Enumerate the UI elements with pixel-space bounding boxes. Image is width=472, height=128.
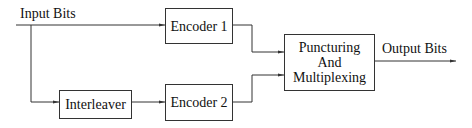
interleaver-block: Interleaver	[59, 90, 132, 119]
puncturing-label-line2: And	[317, 55, 341, 70]
output-bits-label: Output Bits	[382, 41, 447, 57]
encoder2-block: Encoder 2	[165, 84, 233, 121]
puncturing-label-line3: Multiplexing	[293, 70, 366, 85]
puncturing-label-line1: Puncturing	[299, 40, 360, 55]
arrow-input-to-interleaver	[31, 25, 59, 102]
arrow-encoder2-to-puncturing	[232, 75, 284, 102]
encoder2-label: Encoder 2	[170, 95, 227, 110]
interleaver-label: Interleaver	[65, 97, 126, 112]
arrow-encoder1-to-puncturing	[232, 25, 284, 52]
puncturing-multiplexing-block: Puncturing And Multiplexing	[284, 34, 375, 91]
input-bits-label: Input Bits	[20, 6, 76, 22]
encoder1-block: Encoder 1	[165, 8, 233, 44]
encoder1-label: Encoder 1	[170, 19, 227, 34]
